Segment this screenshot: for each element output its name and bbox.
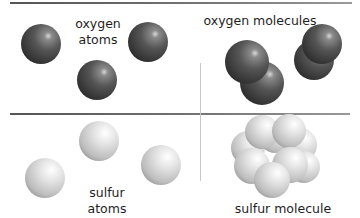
sulfur-atoms-label-line2: atoms bbox=[82, 201, 132, 217]
sulfur-atom-icon bbox=[25, 158, 65, 198]
sulfur-atoms-label-line1: sulfur bbox=[82, 185, 132, 201]
sulfur-atoms-label: sulfur atoms bbox=[82, 185, 132, 217]
sulfur-atom-icon bbox=[79, 121, 119, 161]
oxygen-atoms-label-line1: oxygen bbox=[70, 16, 126, 32]
diagram-canvas: oxygen atoms oxygen molecules sulfur ato… bbox=[0, 0, 360, 218]
oxygen-atoms-label: oxygen atoms bbox=[70, 16, 126, 48]
oxygen-molecule-icon bbox=[225, 40, 284, 105]
sulfur-molecule-label: sulfur molecule bbox=[228, 201, 338, 217]
oxygen-atoms-label-line2: atoms bbox=[70, 32, 126, 48]
oxygen-atom-icon bbox=[77, 60, 117, 100]
oxygen-atom-icon bbox=[128, 22, 168, 62]
oxygen-molecules-label: oxygen molecules bbox=[200, 13, 320, 29]
oxygen-atom-icon bbox=[21, 24, 61, 64]
sulfur-atom-icon bbox=[141, 145, 181, 185]
sulfur-molecule-icon bbox=[231, 114, 320, 198]
oxygen-molecule-icon bbox=[294, 24, 342, 80]
atoms-illustration bbox=[0, 0, 360, 218]
